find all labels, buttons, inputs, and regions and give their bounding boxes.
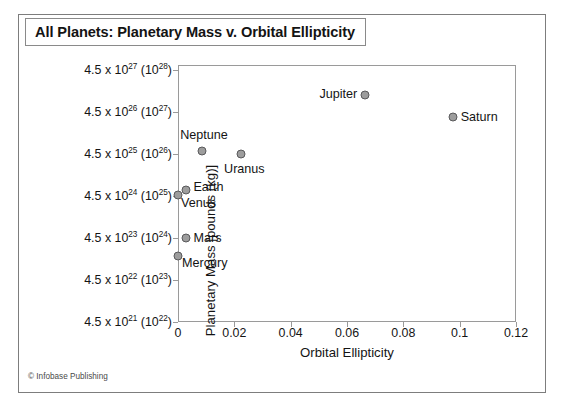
x-axis-tick-label: 0.02 [222,326,246,340]
page-title: All Planets: Planetary Mass v. Orbital E… [35,24,355,40]
y-axis-tick [173,238,178,239]
x-axis-tick-label: 0.04 [279,326,303,340]
data-point-label: Neptune [180,128,228,142]
publisher-credit: © Infobase Publishing [28,372,108,381]
data-point[interactable] [448,112,457,121]
x-axis-tick-label: 0.06 [335,326,359,340]
data-point[interactable] [182,233,191,242]
x-axis-tick-label: 0.1 [451,326,468,340]
data-point-label: Saturn [461,110,498,124]
y-axis-tick-label: 4.5 x 1022 (1023) [84,273,172,287]
y-axis-tick-label: 4.5 x 1025 (1026) [84,147,172,161]
y-axis-tick-label: 4.5 x 1027 (1028) [84,63,172,77]
y-axis-tick-label: 4.5 x 1024 (1025) [84,189,172,203]
chart-screenshot: All Planets: Planetary Mass v. Orbital E… [0,0,562,409]
data-point-label: Jupiter [319,87,357,101]
x-axis-tick-label: 0.08 [391,326,415,340]
data-point-label: Uranus [224,162,265,176]
data-point[interactable] [237,149,246,158]
y-axis-tick-labels: 4.5 x 1021 (1022)4.5 x 1022 (1023)4.5 x … [60,0,172,409]
y-axis-tick [173,280,178,281]
plot-area: Planetary Mass [pounds (kg)] MercuryVenu… [178,65,516,322]
x-axis-tick-labels: 00.020.040.060.080.10.12 [0,326,562,346]
x-axis-tick-label: 0 [175,326,182,340]
data-point[interactable] [182,186,191,195]
y-axis-tick [173,322,178,323]
y-axis-tick-label: 4.5 x 1023 (1024) [84,231,172,245]
data-point[interactable] [361,91,370,100]
y-axis-tick [173,154,178,155]
x-axis-tick-label: 0.12 [504,326,528,340]
x-axis-title: Orbital Ellipticity [178,345,516,360]
data-point-label: Mars [193,231,221,245]
data-point[interactable] [197,147,206,156]
data-point-label: Earth [193,180,223,194]
y-axis-tick [173,112,178,113]
data-point-label: Mercury [182,256,227,270]
chart-title-box: All Planets: Planetary Mass v. Orbital E… [25,18,366,46]
y-axis-tick-label: 4.5 x 1026 (1027) [84,105,172,119]
y-axis-tick [173,70,178,71]
data-point-label: Venus [181,196,216,210]
